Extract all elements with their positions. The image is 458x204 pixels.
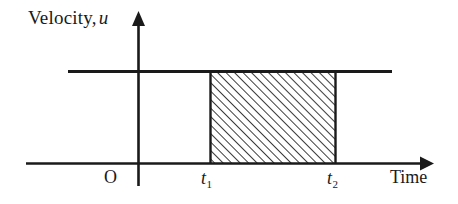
y-axis-label: Velocity,u [28, 8, 108, 27]
t2-subscript: 2 [333, 178, 339, 190]
t2-variable: t [327, 168, 332, 188]
y-axis-label-variable: u [97, 7, 109, 28]
t2-tick-label: t2 [327, 169, 338, 187]
t1-subscript: 1 [207, 178, 213, 190]
y-axis-label-prefix: Velocity, [28, 7, 97, 28]
y-axis-arrowhead-icon [132, 11, 145, 26]
t1-tick-label: t1 [201, 169, 212, 187]
x-axis-label: Time [390, 168, 427, 186]
origin-label: O [104, 168, 117, 186]
t1-variable: t [201, 168, 206, 188]
velocity-time-figure: Velocity,u O t1 t2 Time [0, 0, 458, 204]
hatched-displacement-area [211, 73, 336, 164]
